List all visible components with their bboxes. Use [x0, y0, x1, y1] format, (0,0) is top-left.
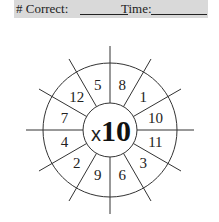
wheel-number: 8 — [118, 77, 126, 93]
wheel-number: 1 — [139, 89, 147, 105]
wheel-number: 10 — [148, 110, 163, 126]
multiplication-wheel: 811011369247125 x10 — [0, 0, 219, 222]
wheel-number: 12 — [69, 89, 84, 105]
wheel-number: 4 — [61, 134, 69, 150]
wheel-number: 2 — [73, 155, 81, 171]
wheel-number: 6 — [118, 167, 126, 183]
wheel-number: 7 — [61, 110, 69, 126]
wheel-number: 5 — [94, 77, 102, 93]
wheel-number: 9 — [94, 167, 102, 183]
wheel-number: 11 — [148, 134, 162, 150]
wheel-number: 3 — [139, 155, 147, 171]
